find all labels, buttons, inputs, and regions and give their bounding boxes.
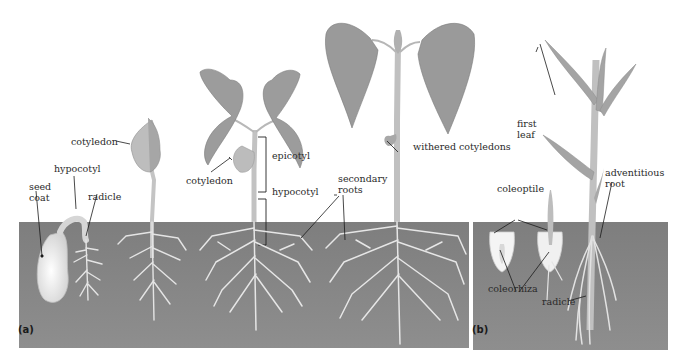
label-adventitious-root: adventitious root	[605, 167, 664, 189]
label-cotyledon-2: cotyledon	[186, 175, 233, 186]
germination-figure: seed coat hypocotyl radicle cotyledon co…	[0, 0, 674, 350]
label-first-leaf: first leaf	[517, 118, 537, 140]
panel-label-a: (a)	[18, 324, 34, 335]
label-radicle-b: radicle	[542, 296, 575, 307]
panel-label-b: (b)	[472, 324, 488, 335]
label-cotyledon-1: cotyledon	[71, 136, 118, 147]
label-radicle-a: radicle	[88, 191, 121, 202]
label-withered-cotyledons: withered cotyledons	[413, 141, 511, 152]
label-hypocotyl-1: hypocotyl	[54, 163, 101, 174]
label-coleorhiza: coleorhiza	[488, 283, 538, 294]
label-coleoptile: coleoptile	[497, 183, 544, 194]
label-secondary-roots: secondary roots	[338, 173, 387, 195]
label-hypocotyl-2: hypocotyl	[272, 186, 319, 197]
label-epicotyl: epicotyl	[272, 150, 310, 161]
label-seed-coat: seed coat	[29, 181, 51, 203]
